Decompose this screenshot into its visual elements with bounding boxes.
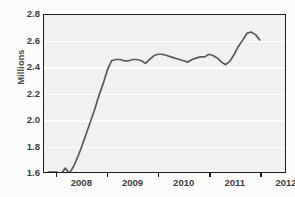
x-tick-mark: [107, 173, 108, 177]
y-tick-label: 1.6: [16, 168, 40, 178]
x-tick-label: 2012: [266, 178, 295, 188]
x-tick-label: 2009: [113, 178, 153, 188]
x-tick-mark: [260, 173, 261, 177]
y-axis-tick-labels: 1.61.82.02.22.42.62.8: [16, 0, 40, 197]
y-tick-label: 2.2: [16, 89, 40, 99]
y-tick-label: 2.4: [16, 62, 40, 72]
x-tick-mark: [158, 173, 159, 177]
x-tick-mark: [56, 173, 57, 177]
series-line-millions: [44, 15, 285, 172]
line-chart-figure: Millions 1.61.82.02.22.42.62.8 200820092…: [0, 0, 295, 197]
y-tick-label: 2.6: [16, 36, 40, 46]
x-tick-label: 2010: [164, 178, 204, 188]
plot-area: [43, 14, 286, 173]
y-tick-label: 2.0: [16, 115, 40, 125]
x-tick-mark: [209, 173, 210, 177]
x-tick-label: 2008: [61, 178, 101, 188]
x-tick-label: 2011: [215, 178, 255, 188]
y-tick-label: 2.8: [16, 9, 40, 19]
y-tick-label: 1.8: [16, 142, 40, 152]
